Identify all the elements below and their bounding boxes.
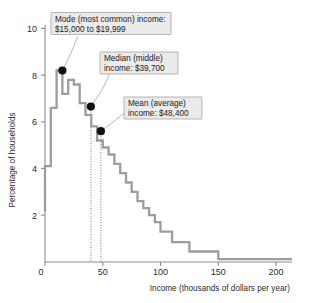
y-tick-label-8: 8 <box>32 71 37 81</box>
x-axis-title-text: Income (thousands of dollars per year) <box>150 284 290 293</box>
median-annotation-line1: Median (middle) <box>104 54 163 63</box>
y-tick-label-2: 2 <box>32 211 37 221</box>
chart-svg: Percentage of households 10 8 6 4 2 0 50 <box>0 0 310 303</box>
x-tick-label-100: 100 <box>153 267 168 277</box>
x-tick-label-200: 200 <box>268 267 283 277</box>
x-tick-label-150: 150 <box>211 267 226 277</box>
median-data-point-marker <box>87 103 95 111</box>
median-leader-line <box>91 73 110 107</box>
mode-data-point-marker <box>58 66 66 74</box>
y-tick-label-4: 4 <box>32 164 37 174</box>
income-distribution-chart: Percentage of households 10 8 6 4 2 0 50 <box>0 0 310 303</box>
mode-annotation-line1: Mode (most common) income: <box>55 15 166 24</box>
mean-data-point-marker <box>97 127 105 135</box>
mean-annotation-line2: income: $48,400 <box>128 109 189 118</box>
y-tick-label-10: 10 <box>27 24 37 34</box>
y-tick-label-0: 0 <box>38 267 43 277</box>
annotation-mean: Mean (average) income: $48,400 <box>97 97 202 135</box>
y-axis-ticks: 10 8 6 4 2 0 <box>27 24 45 277</box>
mode-leader-line <box>62 36 78 71</box>
median-annotation-line2: income: $39,700 <box>104 64 165 73</box>
y-axis-title: Percentage of households <box>8 112 17 207</box>
mean-leader-line <box>101 113 124 131</box>
mode-annotation-line2: $15,000 to $19,999 <box>55 25 126 34</box>
y-tick-label-6: 6 <box>32 117 37 127</box>
y-axis-title-text: Percentage of households <box>8 112 17 207</box>
mean-annotation-line1: Mean (average) <box>128 99 186 108</box>
x-tick-label-50: 50 <box>98 267 108 277</box>
x-axis-ticks: 50 100 150 200 <box>45 262 284 277</box>
